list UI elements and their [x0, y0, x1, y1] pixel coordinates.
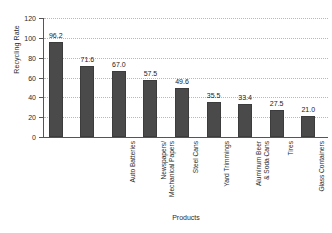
x-axis-spine	[43, 137, 328, 138]
bar-value-label: 67.0	[112, 61, 126, 68]
bar-value-label: 71.6	[81, 56, 95, 63]
y-axis-tick-label: 0	[0, 134, 36, 141]
bar-value-label: 57.5	[144, 70, 158, 77]
bar-value-label: 96.2	[49, 32, 63, 39]
x-axis-category-label: Aluminum Beer & Soda Cans	[255, 141, 270, 211]
x-axis-category-label: Glass Containers	[318, 141, 326, 211]
y-axis-tick-label: 120	[0, 15, 36, 22]
y-axis-tick	[39, 97, 43, 98]
y-axis-tick-label: 20	[0, 114, 36, 121]
bar	[80, 66, 94, 137]
bar-value-label: 21.0	[301, 106, 315, 113]
bar	[112, 71, 126, 137]
bar-value-label: 49.6	[175, 78, 189, 85]
bar	[143, 80, 157, 137]
y-axis-tick	[39, 38, 43, 39]
y-axis-tick	[39, 117, 43, 118]
x-axis-category-label: Yard Trimmings	[223, 141, 231, 211]
y-axis-tick-label: 80	[0, 54, 36, 61]
bar	[301, 116, 315, 137]
y-axis-tick	[39, 58, 43, 59]
bar	[238, 104, 252, 137]
y-axis-tick	[39, 78, 43, 79]
bar-value-label: 33.4	[238, 94, 252, 101]
y-axis-tick	[39, 18, 43, 19]
bar	[270, 110, 284, 137]
y-axis-tick-label: 60	[0, 74, 36, 81]
x-axis-category-label: Auto Batteries	[129, 141, 137, 211]
bar	[49, 42, 63, 137]
y-axis-spine	[43, 18, 44, 137]
bar	[207, 102, 221, 137]
gridline	[44, 38, 328, 39]
x-axis-category-label: Tires	[287, 141, 295, 211]
x-axis-title: Products	[40, 214, 332, 221]
bar-value-label: 27.5	[270, 100, 284, 107]
plot-area: 96.271.667.057.549.635.533.427.521.0	[44, 18, 328, 137]
y-axis-tick-label: 40	[0, 94, 36, 101]
y-axis-tick-label: 100	[0, 34, 36, 41]
x-axis-category-label: Newspapers/ Mechanical Papers	[160, 141, 175, 211]
bar	[175, 88, 189, 137]
bar-chart: Recycling Rate 96.271.667.057.549.635.53…	[0, 0, 332, 233]
y-axis-tick	[39, 137, 43, 138]
x-axis-category-label: Steel Cans	[192, 141, 200, 211]
gridline	[44, 18, 328, 19]
bar-value-label: 35.5	[207, 92, 221, 99]
